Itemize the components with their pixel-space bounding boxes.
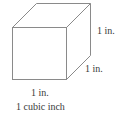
width-label: 1 in. [31,88,49,98]
diagram-caption: 1 cubic inch [16,102,65,112]
cube-drawing [0,0,117,113]
depth-label: 1 in. [85,64,103,74]
height-label: 1 in. [97,26,115,36]
cube-front-face [13,28,67,80]
cube-top-face [13,4,91,28]
